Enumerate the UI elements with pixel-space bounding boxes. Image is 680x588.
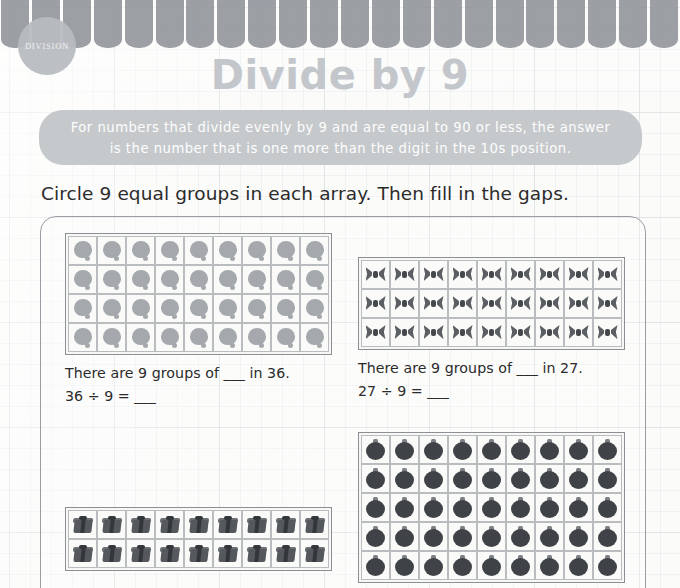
array-cell[interactable] [242, 265, 271, 294]
problem-block-2[interactable]: There are 9 groups of ___ in 27. 27 ÷ 9 … [358, 257, 625, 399]
array-cell[interactable] [419, 318, 448, 347]
array-cell[interactable] [564, 289, 593, 318]
array-cell[interactable] [419, 493, 448, 522]
array-cell[interactable] [477, 318, 506, 347]
array-cell[interactable] [448, 522, 477, 551]
array-cell[interactable] [68, 323, 97, 352]
array-cell[interactable] [593, 318, 622, 347]
array-cell[interactable] [506, 289, 535, 318]
array-cell[interactable] [564, 318, 593, 347]
array-cell[interactable] [448, 318, 477, 347]
array-cell[interactable] [97, 323, 126, 352]
array-cell[interactable] [477, 260, 506, 289]
array-cell[interactable] [506, 493, 535, 522]
array-cell[interactable] [213, 265, 242, 294]
array-cell[interactable] [506, 318, 535, 347]
array-cell[interactable] [448, 493, 477, 522]
array-cell[interactable] [97, 539, 126, 568]
array-cell[interactable] [477, 522, 506, 551]
problem-block-4[interactable] [65, 507, 332, 571]
array-cell[interactable] [184, 265, 213, 294]
array-cell[interactable] [213, 323, 242, 352]
array-cell[interactable] [448, 435, 477, 464]
array-cell[interactable] [361, 289, 390, 318]
array-cell[interactable] [271, 323, 300, 352]
array-cell[interactable] [361, 435, 390, 464]
array-cell[interactable] [68, 236, 97, 265]
array-cell[interactable] [448, 551, 477, 580]
array-cell[interactable] [419, 522, 448, 551]
array-cell[interactable] [68, 265, 97, 294]
array-cell[interactable] [506, 464, 535, 493]
array-cell[interactable] [184, 236, 213, 265]
array-cell[interactable] [213, 236, 242, 265]
array-grid-balloons[interactable] [65, 233, 332, 355]
array-cell[interactable] [535, 318, 564, 347]
array-cell[interactable] [97, 265, 126, 294]
array-cell[interactable] [564, 522, 593, 551]
array-cell[interactable] [184, 323, 213, 352]
array-cell[interactable] [506, 522, 535, 551]
array-cell[interactable] [535, 464, 564, 493]
array-cell[interactable] [361, 551, 390, 580]
array-cell[interactable] [271, 510, 300, 539]
array-cell[interactable] [477, 493, 506, 522]
array-grid-ornaments[interactable] [358, 432, 625, 583]
array-cell[interactable] [477, 289, 506, 318]
array-cell[interactable] [271, 236, 300, 265]
array-cell[interactable] [68, 294, 97, 323]
problem-block-1[interactable]: There are 9 groups of ___ in 36. 36 ÷ 9 … [65, 233, 332, 404]
array-cell[interactable] [300, 510, 329, 539]
array-cell[interactable] [390, 260, 419, 289]
array-cell[interactable] [213, 539, 242, 568]
array-cell[interactable] [477, 551, 506, 580]
problem-block-3[interactable] [358, 432, 625, 583]
array-cell[interactable] [213, 510, 242, 539]
array-cell[interactable] [535, 289, 564, 318]
array-cell[interactable] [155, 510, 184, 539]
array-cell[interactable] [68, 539, 97, 568]
array-cell[interactable] [242, 294, 271, 323]
array-cell[interactable] [300, 323, 329, 352]
array-cell[interactable] [155, 539, 184, 568]
array-cell[interactable] [155, 294, 184, 323]
array-cell[interactable] [593, 464, 622, 493]
array-cell[interactable] [271, 265, 300, 294]
array-cell[interactable] [564, 260, 593, 289]
array-cell[interactable] [419, 435, 448, 464]
array-cell[interactable] [535, 522, 564, 551]
array-cell[interactable] [593, 435, 622, 464]
array-cell[interactable] [593, 260, 622, 289]
array-cell[interactable] [184, 510, 213, 539]
array-cell[interactable] [390, 289, 419, 318]
array-cell[interactable] [300, 236, 329, 265]
array-grid-gifts[interactable] [65, 507, 332, 571]
array-cell[interactable] [361, 493, 390, 522]
array-cell[interactable] [213, 294, 242, 323]
array-cell[interactable] [126, 294, 155, 323]
array-cell[interactable] [155, 323, 184, 352]
array-cell[interactable] [390, 318, 419, 347]
array-cell[interactable] [155, 236, 184, 265]
array-cell[interactable] [300, 539, 329, 568]
array-cell[interactable] [126, 265, 155, 294]
array-cell[interactable] [477, 435, 506, 464]
array-cell[interactable] [593, 289, 622, 318]
array-cell[interactable] [419, 289, 448, 318]
array-cell[interactable] [419, 464, 448, 493]
array-cell[interactable] [242, 236, 271, 265]
array-cell[interactable] [535, 551, 564, 580]
array-cell[interactable] [506, 260, 535, 289]
array-cell[interactable] [242, 323, 271, 352]
array-cell[interactable] [390, 551, 419, 580]
array-cell[interactable] [390, 464, 419, 493]
array-cell[interactable] [300, 294, 329, 323]
array-cell[interactable] [506, 435, 535, 464]
array-cell[interactable] [535, 260, 564, 289]
array-cell[interactable] [97, 236, 126, 265]
array-cell[interactable] [68, 510, 97, 539]
array-cell[interactable] [535, 493, 564, 522]
array-cell[interactable] [564, 551, 593, 580]
array-cell[interactable] [477, 464, 506, 493]
array-cell[interactable] [126, 539, 155, 568]
